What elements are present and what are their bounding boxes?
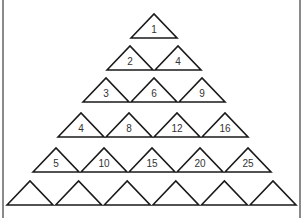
triangle-cell: 4 [58,113,104,137]
blank-triangle-cell [56,181,102,205]
triangle-icon [250,181,296,205]
triangle-cell: 4 [155,46,201,70]
triangle-cell: 12 [154,113,200,137]
triangle-cell: 25 [225,148,271,172]
blank-triangle-cell [201,181,247,205]
triangle-label: 20 [194,158,206,169]
triangle-label: 5 [53,158,59,169]
blank-triangle-cell [7,181,53,205]
triangle-icon [201,181,247,205]
triangle-cell: 5 [33,148,79,172]
blank-triangle-cell [250,181,296,205]
triangle-label: 9 [199,88,205,99]
pyramid-row-2: 24 [107,46,201,70]
pyramid-row-3: 369 [83,78,225,102]
pyramid-row-1: 1 [131,14,177,38]
triangle-icon [153,181,199,205]
triangle-label: 1 [151,24,157,35]
triangle-label: 16 [219,123,231,134]
triangle-cell: 9 [179,78,225,102]
pyramid-row-5: 510152025 [33,148,271,172]
triangle-label: 4 [175,56,181,67]
triangle-label: 6 [151,88,157,99]
triangle-label: 3 [103,88,109,99]
triangle-cell: 6 [131,78,177,102]
triangle-pyramid: 124369481216510152025 [0,0,305,218]
triangle-cell: 3 [83,78,129,102]
pyramid-row-6 [7,181,296,205]
triangle-icon [56,181,102,205]
triangle-label: 10 [98,158,110,169]
triangle-cell: 2 [107,46,153,70]
pyramid-row-4: 481216 [58,113,248,137]
triangle-cell: 15 [129,148,175,172]
triangle-label: 15 [146,158,158,169]
triangle-label: 12 [171,123,183,134]
triangle-cell: 1 [131,14,177,38]
triangle-label: 25 [242,158,254,169]
triangle-label: 8 [126,123,132,134]
triangle-icon [7,181,53,205]
blank-triangle-cell [104,181,150,205]
triangle-label: 2 [127,56,133,67]
blank-triangle-cell [153,181,199,205]
triangle-cell: 16 [202,113,248,137]
triangle-cell: 8 [106,113,152,137]
triangle-cell: 20 [177,148,223,172]
triangle-label: 4 [78,123,84,134]
triangle-icon [104,181,150,205]
triangle-cell: 10 [81,148,127,172]
